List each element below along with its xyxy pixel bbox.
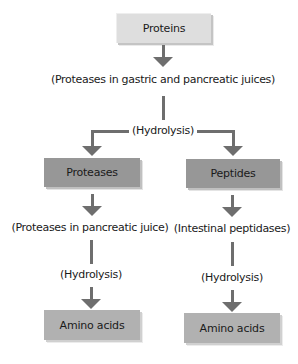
peptides-node: Peptides	[186, 159, 280, 188]
right-enzyme-label: (Intestinal peptidases)	[174, 222, 290, 235]
connector-line	[231, 242, 234, 266]
right-process-label: (Hydrolysis)	[201, 271, 263, 284]
arrow-down-icon	[81, 287, 101, 309]
arrow-down-icon	[82, 130, 102, 156]
amino-acids-label: Amino acids	[60, 319, 125, 332]
arrow-down-icon	[222, 290, 242, 312]
amino-acids-node-right: Amino acids	[184, 313, 280, 343]
step1-process-label: (Hydrolysis)	[132, 124, 194, 137]
arrow-down-icon	[153, 45, 173, 67]
step1-enzyme-label: (Proteases in gastric and pancreatic jui…	[51, 73, 275, 86]
left-enzyme-label: (Proteases in pancreatic juice)	[11, 221, 168, 234]
arrow-down-icon	[82, 194, 102, 216]
amino-acids-node-left: Amino acids	[44, 310, 140, 340]
connector-line	[90, 240, 93, 264]
proteases-node: Proteases	[44, 158, 140, 187]
proteases-label: Proteases	[66, 166, 118, 179]
left-process-label: (Hydrolysis)	[60, 268, 122, 281]
connector-line	[162, 96, 165, 120]
proteins-node: Proteins	[116, 13, 211, 43]
arrow-down-icon	[223, 130, 243, 156]
amino-acids-label: Amino acids	[200, 322, 265, 335]
peptides-label: Peptides	[210, 167, 255, 180]
proteins-label: Proteins	[143, 22, 186, 35]
arrow-down-icon	[222, 195, 242, 217]
